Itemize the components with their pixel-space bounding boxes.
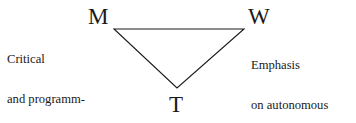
vertex-label-m: M [88,5,108,28]
right-note: Emphasis on autonomous power of religiou… [251,33,343,123]
left-note: Critical and programm- atic appraisal of… [7,27,104,123]
left-note-line: and programm- [7,93,104,106]
triangle-shape [114,29,244,88]
vertex-label-t: T [169,93,183,116]
right-note-line: Emphasis [251,59,343,72]
vertex-label-w: W [248,5,270,28]
right-note-line: on autonomous [251,99,343,112]
left-note-line: Critical [7,53,104,66]
